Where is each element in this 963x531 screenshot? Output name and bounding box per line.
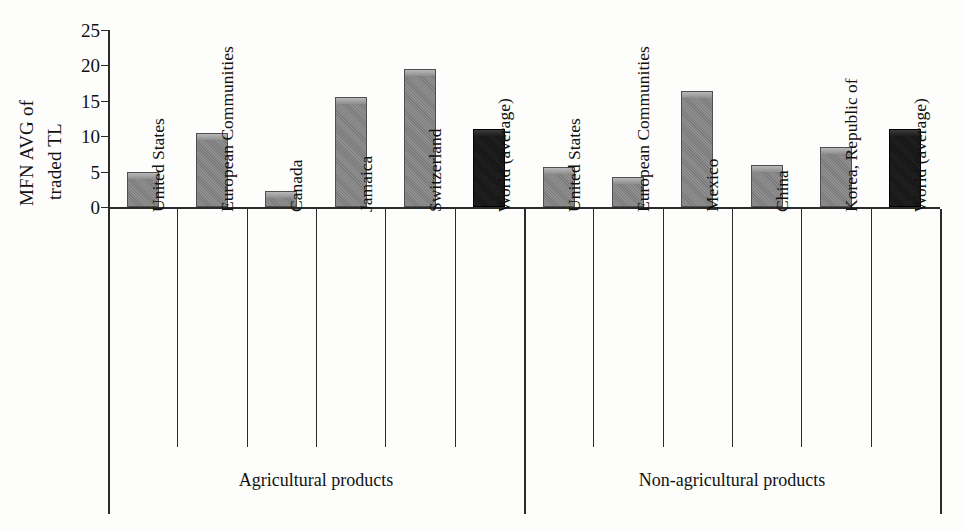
y-axis-label-line-1: MFN AVG of — [16, 100, 38, 206]
y-tick-label: 25 — [56, 21, 100, 40]
y-tick-mark — [101, 30, 108, 31]
category-separator-line — [316, 209, 317, 447]
category-separator-line — [871, 209, 872, 447]
bar-cap — [404, 69, 436, 76]
category-separator-line — [455, 209, 456, 447]
group-caption: Agricultural products — [108, 470, 524, 491]
y-axis-line — [108, 30, 110, 207]
y-tick-mark — [101, 172, 108, 173]
y-tick-mark — [101, 136, 108, 137]
bar-cap — [681, 91, 713, 98]
y-tick-label: 5 — [56, 162, 100, 181]
category-separator-line — [732, 209, 733, 447]
group-boundary-line — [524, 209, 526, 514]
y-tick-mark — [101, 207, 108, 208]
category-separator-line — [663, 209, 664, 447]
bar-cap — [335, 97, 367, 104]
y-tick-label: 0 — [56, 198, 100, 217]
y-tick-label: 15 — [56, 91, 100, 110]
category-separator-line — [801, 209, 802, 447]
group-boundary-line — [108, 209, 110, 514]
group-caption: Non-agricultural products — [524, 470, 940, 491]
category-separator-line — [177, 209, 178, 447]
y-tick-label: 10 — [56, 127, 100, 146]
y-tick-mark — [101, 65, 108, 66]
category-separator-line — [593, 209, 594, 447]
group-boundary-line — [940, 209, 942, 514]
y-tick-mark — [101, 101, 108, 102]
category-separator-line — [247, 209, 248, 447]
chart-figure: MFN AVG of traded TL 0510152025 United S… — [0, 0, 963, 531]
y-tick-label: 20 — [56, 56, 100, 75]
category-separator-line — [385, 209, 386, 447]
